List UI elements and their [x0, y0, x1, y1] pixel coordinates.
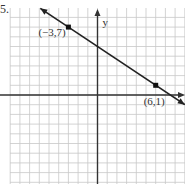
- svg-text:(6,1): (6,1): [144, 95, 165, 108]
- coordinate-plane: y (−3,7)(6,1): [0, 0, 185, 184]
- svg-text:y: y: [103, 16, 109, 28]
- svg-text:(−3,7): (−3,7): [38, 26, 66, 39]
